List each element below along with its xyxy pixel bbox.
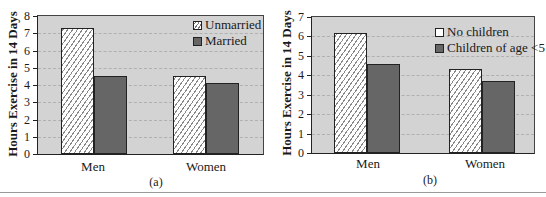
bar-women-married [206,83,239,154]
y-tick-label: 4 [292,69,304,81]
chart-a: Hours Exercise in 14 Days 012345678 Unma… [0,0,270,180]
y-tick-label: 1 [18,131,30,143]
y-tick [307,17,311,18]
y-tick [33,51,37,52]
y-tick-label: 6 [292,30,304,42]
legend-item-no-children: No children [435,24,545,40]
legend-item-children-under-5: Children of age <5 [435,40,545,56]
y-tick-label: 7 [18,27,30,39]
category-label-women-a: Women [171,159,241,175]
y-tick [307,75,311,76]
y-tick [307,114,311,115]
solid-swatch-icon [435,44,444,53]
hatched-swatch-icon [193,21,202,30]
bar-men-unmarried [61,28,94,154]
bar-men-no-children [334,33,367,153]
y-tick [307,95,311,96]
y-tick [33,68,37,69]
category-label-women-b: Women [450,156,520,172]
bar-women-children-of-age-5 [482,81,515,153]
y-tick-label: 1 [292,128,304,140]
legend-item-married: Married [193,33,261,49]
bar-women-no-children [449,69,482,153]
y-tick [33,102,37,103]
category-label-men-a: Men [58,159,128,175]
bar-men-children-of-age-5 [367,64,400,153]
y-tick-label: 8 [18,10,30,22]
y-tick-label: 3 [18,96,30,108]
y-tick-label: 2 [18,114,30,126]
y-tick-label: 5 [18,62,30,74]
hatched-swatch-icon [435,28,444,37]
y-tick-label: 2 [292,108,304,120]
y-tick [33,120,37,121]
legend-a: Unmarried Married [193,17,261,49]
category-label-men-b: Men [333,156,403,172]
chart-b: Hours Exercise in 14 Days 01234567 No ch… [270,0,546,180]
y-tick-label: 4 [18,79,30,91]
y-tick-label: 5 [292,50,304,62]
legend-item-unmarried: Unmarried [193,17,261,33]
legend-b: No children Children of age <5 [435,24,545,56]
solid-swatch-icon [193,37,202,46]
caption-a: (a) [136,175,176,190]
y-tick-label: 3 [292,89,304,101]
y-tick-label: 6 [18,45,30,57]
y-tick [33,85,37,86]
bottom-divider [0,192,546,193]
y-tick [33,137,37,138]
y-tick [33,16,37,17]
y-tick [33,154,37,155]
y-tick [307,36,311,37]
bar-women-unmarried [173,76,206,154]
y-tick-label: 0 [18,148,30,160]
caption-b: (b) [410,173,450,188]
y-tick [33,33,37,34]
y-tick [307,153,311,154]
y-tick [307,134,311,135]
y-tick-label: 7 [292,11,304,23]
y-tick [307,56,311,57]
bar-men-married [94,76,127,154]
y-tick-label: 0 [292,147,304,159]
